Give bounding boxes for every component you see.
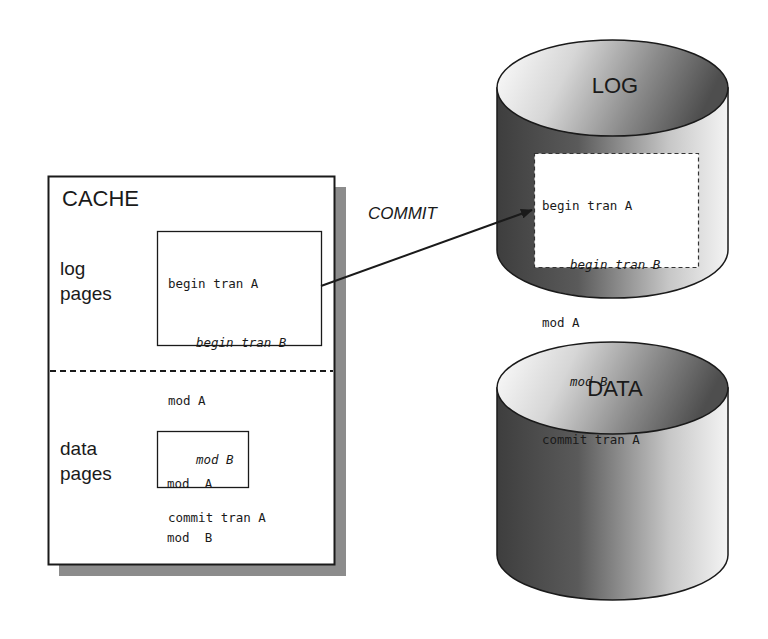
data-pages-label-line2: pages bbox=[60, 461, 112, 486]
data-disk-label: DATA bbox=[555, 376, 675, 402]
log-disk-record: mod A bbox=[542, 313, 660, 333]
log-disk-record: begin tran B bbox=[542, 255, 660, 275]
log-disk-record: commit tran A bbox=[542, 430, 660, 450]
log-record: mod A bbox=[168, 391, 286, 411]
log-disk-label: LOG bbox=[555, 73, 675, 99]
log-disk-record: begin tran A bbox=[542, 196, 660, 216]
commit-label: COMMIT bbox=[368, 204, 437, 224]
log-record: begin tran B bbox=[168, 333, 286, 353]
log-pages-label-line2: pages bbox=[60, 281, 112, 306]
cache-data-records: mod A mod B bbox=[167, 439, 212, 565]
data-record: mod A bbox=[167, 475, 212, 493]
log-pages-label-line1: log bbox=[60, 256, 112, 281]
data-record: mod B bbox=[167, 529, 212, 547]
data-pages-label-line1: data bbox=[60, 436, 112, 461]
log-disk-records: begin tran A begin tran B mod A mod B co… bbox=[542, 157, 660, 469]
log-pages-label: log pages bbox=[60, 256, 112, 306]
log-record: begin tran A bbox=[168, 274, 286, 294]
data-pages-label: data pages bbox=[60, 436, 112, 486]
cache-title: CACHE bbox=[62, 186, 139, 212]
